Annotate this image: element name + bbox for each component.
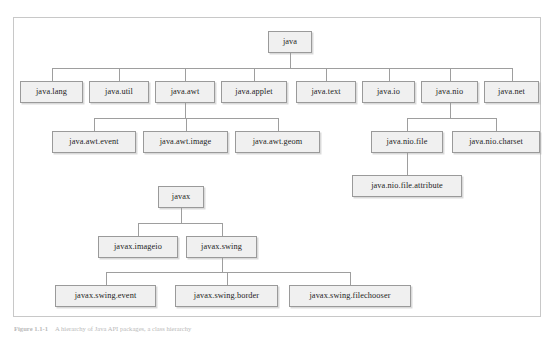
connector-drop-java.awt.geom [278,118,279,131]
figure-caption: Figure 1.1-1A hierarchy of Java API pack… [14,325,434,333]
package-node-label: java [283,38,297,46]
connector-drop-java.awt [185,68,186,81]
package-node-label: javax.imageio [114,243,162,251]
connector-drop-javax.swing.event [106,272,107,285]
package-node-label: java.io [377,88,400,96]
package-node-label: javax.swing.filechooser [309,292,390,300]
package-node-java.nio.charset: java.nio.charset [452,131,540,153]
connector-bus-javax [138,223,222,224]
connector-drop-java.awt.image [186,118,187,131]
connector-drop-javax.imageio [138,223,139,236]
package-node-label: java.nio.file.attribute [371,182,443,190]
connector-bus-javax.swing [106,272,350,273]
connector-bus-java [52,68,512,69]
figure-frame: javajava.langjava.utiljava.awtjava.apple… [13,17,541,317]
connector-stem-javax [181,208,182,223]
figure-caption-label: Figure 1.1-1 [14,325,48,332]
package-node-label: java.applet [235,88,272,96]
figure-caption-text: A hierarchy of Java API packages, a clas… [55,325,191,332]
package-node-java.nio.file: java.nio.file [371,131,443,153]
connector-stem-java.nio.file [407,153,408,164]
connector-drop-java.net [512,68,513,81]
package-node-javax.swing.border: javax.swing.border [175,285,278,307]
package-node-java: java [268,31,312,53]
connector-drop-java.nio.file.attribute [407,164,408,175]
package-node-java.awt.event: java.awt.event [52,131,136,153]
package-node-javax.swing.event: javax.swing.event [55,285,156,307]
package-node-label: javax [172,193,190,201]
package-node-java.awt.geom: java.awt.geom [235,131,320,153]
package-node-java.awt: java.awt [155,81,215,103]
package-node-javax.imageio: javax.imageio [98,236,178,258]
package-node-java.lang: java.lang [20,81,83,103]
package-node-label: java.util [105,88,133,96]
package-node-label: java.nio [436,88,463,96]
package-node-java.util: java.util [89,81,149,103]
connector-drop-java.util [119,68,120,81]
figure-page: javajava.langjava.utiljava.awtjava.apple… [0,0,555,338]
package-node-label: java.awt.event [69,138,118,146]
connector-stem-java [290,53,291,68]
package-node-javax.swing: javax.swing [186,236,257,258]
package-node-java.net: java.net [484,81,539,103]
connector-drop-java.nio.charset [496,118,497,131]
package-node-java.text: java.text [296,81,356,103]
package-node-javax: javax [158,186,204,208]
connector-drop-java.nio.file [407,118,408,131]
connector-drop-javax.swing.filechooser [350,272,351,285]
connector-drop-javax.swing.border [227,272,228,285]
connector-drop-javax.swing [222,223,223,236]
package-node-label: java.lang [36,88,67,96]
connector-drop-java.applet [254,68,255,81]
connector-drop-java.io [389,68,390,81]
package-node-label: java.awt [171,88,200,96]
package-node-label: java.nio.file [387,138,428,146]
connector-drop-java.nio [450,68,451,81]
connector-stem-javax.swing [222,258,223,272]
package-node-label: java.text [311,88,340,96]
package-node-label: java.net [498,88,525,96]
package-node-label: javax.swing.border [194,292,259,300]
connector-bus-java.nio [407,118,496,119]
package-node-label: java.awt.image [160,138,212,146]
package-node-label: javax.swing.event [75,292,137,300]
package-node-java.applet: java.applet [221,81,287,103]
package-node-java.io: java.io [362,81,415,103]
connector-drop-java.lang [52,68,53,81]
connector-stem-java.nio [450,103,451,118]
package-node-label: java.nio.charset [469,138,523,146]
package-node-java.nio.file.attribute: java.nio.file.attribute [352,175,462,197]
package-node-label: java.awt.geom [253,138,303,146]
connector-drop-java.awt.event [94,118,95,131]
package-node-java.awt.image: java.awt.image [143,131,228,153]
package-node-label: javax.swing [201,243,242,251]
connector-stem-java.awt [185,103,186,118]
connector-drop-java.text [326,68,327,81]
package-node-java.nio: java.nio [421,81,478,103]
package-node-javax.swing.filechooser: javax.swing.filechooser [289,285,411,307]
